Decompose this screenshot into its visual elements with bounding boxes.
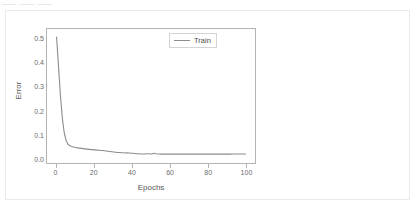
x-axis-ticks: 020406080100 [6,11,286,201]
legend-line-swatch-train [174,40,190,41]
x-tick-mark [132,164,133,168]
x-tick-mark [56,164,57,168]
training-error-chart: Error 0.00.10.20.30.40.5 020406080100 Ep… [6,11,286,201]
x-tick-mark [170,164,171,168]
x-tick-mark [208,164,209,168]
x-tick-label: 100 [233,169,259,176]
x-tick-label: 0 [43,169,69,176]
x-tick-label: 40 [119,169,145,176]
clipped-header-text: —— —— —— [2,0,122,7]
x-tick-label: 20 [81,169,107,176]
x-tick-mark [94,164,95,168]
x-tick-mark [246,164,247,168]
x-tick-label: 60 [157,169,183,176]
x-axis-label: Epochs [46,183,256,192]
figure-card: Error 0.00.10.20.30.40.5 020406080100 Ep… [5,10,410,200]
x-tick-label: 80 [195,169,221,176]
legend-label-train: Train [194,36,211,45]
chart-legend: Train [169,33,217,48]
